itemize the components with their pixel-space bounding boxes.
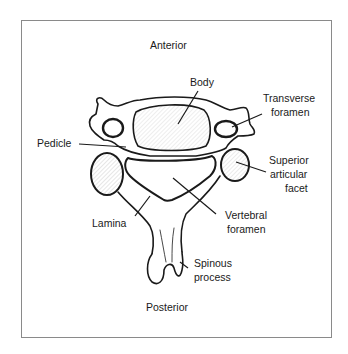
label-vertebral-foramen-line1: Vertebral (225, 209, 267, 222)
label-lamina: Lamina (92, 217, 126, 230)
label-superior-articular-facet-line1: Superior (269, 154, 309, 167)
label-spinous-process-line2: process (194, 271, 231, 284)
label-spinous-process-line1: Spinous (194, 257, 232, 270)
label-superior-articular-facet-line2: articular (270, 168, 307, 181)
label-anterior: Anterior (150, 39, 187, 52)
label-posterior: Posterior (146, 301, 188, 314)
leader-lamina (135, 196, 150, 216)
label-pedicle: Pedicle (37, 137, 71, 150)
label-vertebral-foramen-line2: foramen (227, 223, 266, 236)
label-transverse-foramen-line1: Transverse (263, 92, 315, 105)
label-body: Body (190, 76, 214, 89)
label-transverse-foramen-line2: foramen (271, 106, 310, 119)
label-superior-articular-facet-line3: facet (285, 182, 308, 195)
